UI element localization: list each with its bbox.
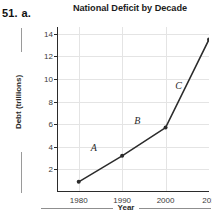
y-axis-title-wrapper: Debt (trillions) <box>12 52 26 152</box>
y-axis-title: Debt (trillions) <box>12 52 26 152</box>
segment-label-b: B <box>134 114 140 125</box>
y-tick-label: 8 <box>49 97 53 106</box>
x-axis-title: Year <box>113 202 140 214</box>
series-points <box>77 37 209 183</box>
y-axis-line <box>57 27 58 192</box>
segment-label-c: C <box>175 79 182 90</box>
segment-label-a: A <box>91 141 97 152</box>
y-tick-label: 6 <box>49 120 53 129</box>
y-tick-label: 4 <box>49 142 53 151</box>
x-axis-line <box>57 191 209 192</box>
y-tick-label: 12 <box>44 52 53 61</box>
problem-number: 51. <box>2 7 18 19</box>
data-point <box>77 180 81 184</box>
data-point <box>164 126 168 130</box>
chart-title: National Deficit by Decade <box>55 3 205 13</box>
y-tick-label: 14 <box>44 29 53 38</box>
plot-area: 2468101214 198019902000201 ABC <box>57 27 209 192</box>
y-tick-label: 10 <box>44 74 53 83</box>
figure-container: 51.a. National Deficit by Decade Debt (t… <box>0 0 212 217</box>
y-tick-label: 2 <box>49 165 53 174</box>
x-axis-title-row: Year <box>41 202 211 214</box>
x-axis-title-rule-right <box>139 208 211 209</box>
x-axis-title-rule-left <box>41 208 113 209</box>
data-point <box>207 37 209 41</box>
data-series <box>57 27 209 192</box>
series-line <box>79 39 209 181</box>
problem-part: a. <box>22 7 31 19</box>
problem-label: 51.a. <box>2 7 31 19</box>
data-point <box>120 154 124 158</box>
